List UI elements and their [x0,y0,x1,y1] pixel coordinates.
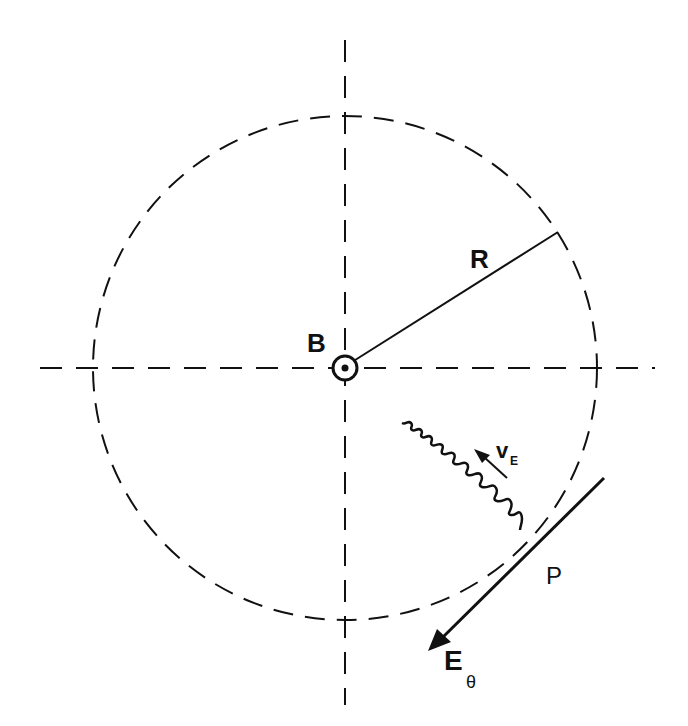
label-e: E [444,645,463,676]
label-v-subscript: E [510,454,518,468]
electric-field-arrow [428,478,604,651]
label-r: R [470,244,489,274]
diagram-canvas: B R v E P E θ [0,0,688,726]
label-b: B [307,328,326,358]
b-field-out-of-page-icon [333,356,357,380]
label-p: P [546,562,562,589]
label-e-subscript: θ [466,672,476,692]
label-v: v [496,438,509,463]
radius-line [352,232,558,362]
